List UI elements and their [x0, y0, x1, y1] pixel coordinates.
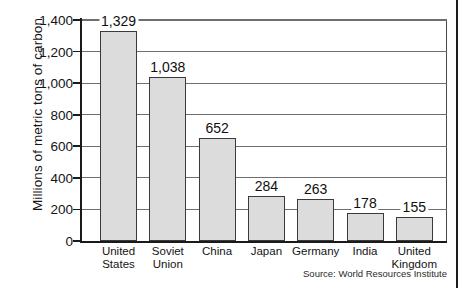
bar: [149, 77, 186, 241]
bar: [248, 196, 285, 241]
bar-value-label: 1,038: [148, 60, 187, 75]
y-tick-mark: [73, 82, 80, 84]
y-tick-mark: [73, 240, 80, 242]
bar-value-label: 178: [351, 196, 378, 211]
x-tick-label: UnitedStates: [102, 245, 135, 270]
y-tick-mark: [73, 19, 80, 21]
bar-value-label: 263: [302, 182, 329, 197]
y-axis-tick-labels: 02004006008001,0001,2001,400: [0, 20, 73, 241]
x-tick-label-line: Japan: [251, 245, 282, 258]
plot-area: 1,3291,038652284263178155: [80, 20, 447, 241]
bar-value-label: 1,329: [99, 14, 138, 29]
x-tick-label-line: Soviet: [152, 245, 184, 258]
bar: [396, 217, 433, 241]
x-tick-label: Japan: [251, 245, 282, 258]
bar: [199, 138, 236, 241]
bar: [347, 213, 384, 241]
x-tick-label-line: Union: [152, 258, 184, 271]
y-tick-label: 0: [65, 234, 73, 249]
bar-value-label: 652: [203, 121, 230, 136]
x-tick-label-line: China: [202, 245, 232, 258]
y-tick-label: 1,000: [39, 76, 73, 91]
y-tick-label: 800: [50, 107, 73, 122]
bar-chart-figure: Millions of metric tons of carbon 020040…: [0, 0, 470, 288]
x-tick-label-line: Germany: [292, 245, 339, 258]
y-tick-label: 600: [50, 139, 73, 154]
y-tick-mark: [73, 145, 80, 147]
x-tick-label: China: [202, 245, 232, 258]
x-tick-label: SovietUnion: [152, 245, 184, 270]
page-gutter-rule: [456, 0, 458, 288]
y-tick-mark: [73, 209, 80, 211]
bar-value-label: 155: [401, 200, 428, 215]
y-tick-label: 1,200: [39, 44, 73, 59]
y-tick-mark: [73, 177, 80, 179]
x-tick-label-line: India: [353, 245, 378, 258]
x-tick-label-line: States: [102, 258, 135, 271]
x-tick-label: India: [353, 245, 378, 258]
y-tick-mark: [73, 114, 80, 116]
x-axis-line: [80, 241, 447, 243]
bar: [100, 31, 137, 241]
y-axis-line: [80, 18, 82, 243]
x-tick-label: UnitedKingdom: [392, 245, 437, 270]
y-tick-label: 200: [50, 202, 73, 217]
bar-value-label: 284: [253, 179, 280, 194]
y-tick-label: 400: [50, 170, 73, 185]
bar: [297, 199, 334, 241]
x-tick-label-line: United: [392, 245, 437, 258]
y-tick-label: 1,400: [39, 13, 73, 28]
x-tick-label-line: United: [102, 245, 135, 258]
y-tick-mark: [73, 51, 80, 53]
x-tick-label: Germany: [292, 245, 339, 258]
source-note: Source: World Resources Institute: [303, 268, 447, 279]
